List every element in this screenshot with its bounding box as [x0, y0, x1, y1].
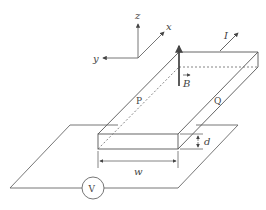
- voltmeter-label: V: [88, 184, 96, 194]
- x-label: x: [166, 21, 172, 32]
- point-p-label: P: [136, 96, 142, 106]
- hall-effect-diagram: z x y V B I P Q: [0, 0, 266, 210]
- thickness-dimension: [180, 134, 203, 149]
- b-field-label: B: [182, 78, 190, 89]
- x-axis: [138, 32, 164, 58]
- current-arrow: [220, 33, 238, 51]
- thickness-label: d: [204, 136, 210, 147]
- axes: [103, 24, 164, 58]
- width-label: w: [134, 166, 143, 177]
- conductor-slab: [98, 52, 258, 149]
- z-label: z: [134, 10, 141, 21]
- point-q-label: Q: [214, 96, 221, 106]
- diagram-canvas: z x y V B I P Q: [0, 0, 266, 210]
- y-label: y: [92, 53, 99, 64]
- current-label: I: [223, 30, 229, 41]
